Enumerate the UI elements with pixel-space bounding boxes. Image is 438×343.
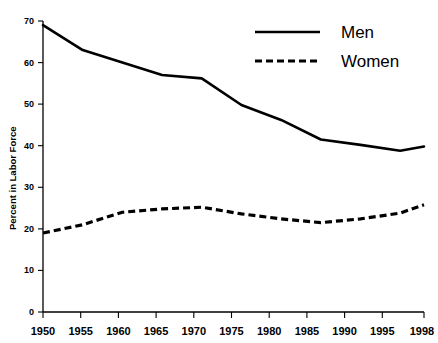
x-tick-label-1970: 1970 <box>182 325 206 337</box>
x-tick-label-1990: 1990 <box>332 325 356 337</box>
y-axis-tick-labels: 0 10 20 30 40 50 60 70 <box>24 16 34 317</box>
x-tick-label-1955: 1955 <box>68 325 92 337</box>
x-tick-label-1960: 1960 <box>106 325 130 337</box>
legend-label-women: Women <box>341 52 399 71</box>
y-axis-title: Percent in Labor Force <box>7 127 18 230</box>
x-axis-ticks <box>43 312 424 318</box>
y-tick-label-0: 0 <box>29 307 34 317</box>
x-tick-label-1975: 1975 <box>219 325 243 337</box>
y-axis-ticks <box>38 21 43 312</box>
line-chart: Percent in Labor Force 0 10 20 30 40 50 … <box>0 0 438 343</box>
x-tick-label-1985: 1985 <box>295 325 319 337</box>
x-axis-tick-labels: 1950 1955 1960 1965 1970 1975 1980 1985 … <box>31 325 434 337</box>
x-tick-label-1950: 1950 <box>31 325 55 337</box>
chart-legend: Men Women <box>255 23 399 71</box>
legend-label-men: Men <box>341 23 374 42</box>
y-tick-label-30: 30 <box>24 182 34 192</box>
x-tick-label-1995: 1995 <box>370 325 394 337</box>
x-tick-label-1998: 1998 <box>410 325 434 337</box>
y-tick-label-60: 60 <box>24 58 34 68</box>
y-tick-label-70: 70 <box>24 16 34 26</box>
y-tick-label-20: 20 <box>24 224 34 234</box>
y-tick-label-40: 40 <box>24 141 34 151</box>
series-line-women <box>43 205 424 233</box>
x-tick-label-1980: 1980 <box>257 325 281 337</box>
x-tick-label-1965: 1965 <box>144 325 168 337</box>
y-tick-label-10: 10 <box>24 265 34 275</box>
chart-container: Percent in Labor Force 0 10 20 30 40 50 … <box>0 0 438 343</box>
series-line-men <box>43 25 424 151</box>
y-tick-label-50: 50 <box>24 99 34 109</box>
